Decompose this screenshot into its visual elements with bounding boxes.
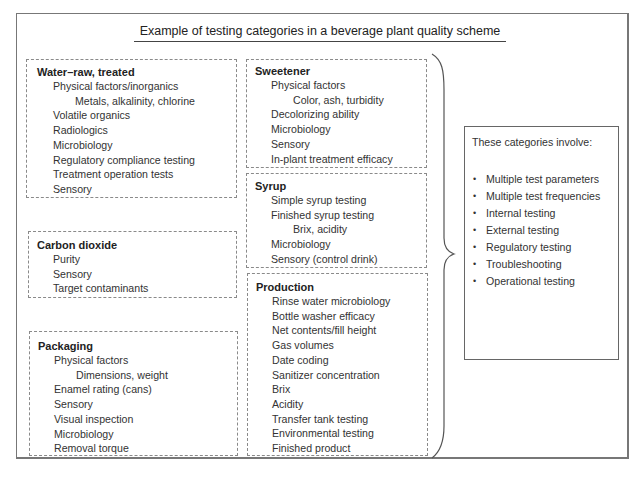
bullet-icon: • [473, 224, 476, 237]
category-heading: Carbon dioxide [37, 238, 236, 252]
category-item: Color, ash, turbidity [255, 93, 426, 108]
category-item: Physical factors [255, 78, 426, 93]
summary-bullet-text: Internal testing [486, 207, 556, 219]
category-item: Sensory [37, 182, 236, 197]
summary-bullet-text: Multiple test parameters [486, 173, 599, 185]
category-box-syrup: Syrup Simple syrup testingFinished syrup… [246, 173, 427, 268]
category-heading: Sweetener [255, 64, 426, 78]
category-item: Date coding [256, 353, 427, 368]
category-item: Gas volumes [256, 338, 427, 353]
category-box-sweetener: Sweetener Physical factorsColor, ash, tu… [246, 59, 427, 168]
summary-bullet-item: •Multiple test parameters [472, 173, 611, 186]
category-box-water: Water–raw, treated Physical factors/inor… [26, 59, 237, 198]
bullet-icon: • [473, 241, 476, 254]
category-item: Sensory [37, 267, 236, 282]
bullet-icon: • [473, 207, 476, 220]
category-item: Enamel rating (cans) [38, 382, 237, 397]
category-item: Physical factors/inorganics [37, 79, 236, 94]
category-heading: Syrup [255, 179, 426, 193]
category-item: Target contaminants [37, 281, 236, 296]
category-item: Microbiology [37, 138, 236, 153]
category-item: Simple syrup testing [255, 193, 426, 208]
summary-bullet-item: •Multiple test frequencies [472, 190, 611, 203]
category-item: Finished product [256, 441, 427, 456]
category-items: PuritySensoryTarget contaminants [37, 252, 236, 296]
category-item: Bottle washer efficacy [256, 309, 427, 324]
category-item: Sensory [38, 397, 237, 412]
category-item: Dimensions, weight [38, 368, 237, 383]
diagram-title: Example of testing categories in a bever… [134, 24, 506, 42]
summary-bullet-text: Troubleshooting [486, 258, 562, 270]
summary-intro: These categories involve: [472, 136, 611, 149]
category-item: Environmental testing [256, 426, 427, 441]
summary-bullet-text: Regulatory testing [486, 241, 571, 253]
category-item: Rinse water microbiology [256, 294, 427, 309]
category-heading: Packaging [38, 339, 237, 353]
summary-bullet-item: •Regulatory testing [472, 241, 611, 254]
category-item: Net contents/fill height [256, 323, 427, 338]
bullet-icon: • [473, 190, 476, 203]
curly-brace-icon [428, 50, 460, 462]
summary-box: These categories involve: •Multiple test… [464, 126, 619, 360]
bullet-icon: • [473, 258, 476, 271]
category-item: Microbiology [38, 427, 237, 442]
summary-bullet-text: External testing [486, 224, 559, 236]
category-item: Volatile organics [37, 108, 236, 123]
category-items: Physical factorsDimensions, weightEnamel… [38, 353, 237, 456]
category-item: Microbiology [255, 122, 426, 137]
category-item: Brix, acidity [255, 222, 426, 237]
category-box-carbon-dioxide: Carbon dioxide PuritySensoryTarget conta… [28, 231, 237, 298]
category-item: Acidity [256, 397, 427, 412]
category-item: Finished syrup testing [255, 208, 426, 223]
summary-bullet-item: •Internal testing [472, 207, 611, 220]
category-heading: Water–raw, treated [37, 65, 236, 79]
category-item: Physical factors [38, 353, 237, 368]
summary-bullet-item: •Troubleshooting [472, 258, 611, 271]
category-box-packaging: Packaging Physical factorsDimensions, we… [29, 331, 238, 456]
bullet-icon: • [473, 275, 476, 288]
category-item: Sensory (control drink) [255, 252, 426, 267]
summary-bullet-list: •Multiple test parameters•Multiple test … [472, 173, 611, 288]
category-items: Physical factorsColor, ash, turbidityDec… [255, 78, 426, 166]
category-item: Removal torque [38, 441, 237, 456]
category-item: Purity [37, 252, 236, 267]
summary-bullet-text: Operational testing [486, 275, 575, 287]
category-item: Sensory [255, 137, 426, 152]
category-item: In-plant treatment efficacy [255, 152, 426, 167]
summary-bullet-item: •Operational testing [472, 275, 611, 288]
category-item: Visual inspection [38, 412, 237, 427]
category-item: Microbiology [255, 237, 426, 252]
category-items: Simple syrup testingFinished syrup testi… [255, 193, 426, 267]
summary-bullet-item: •External testing [472, 224, 611, 237]
category-item: Treatment operation tests [37, 167, 236, 182]
category-item: Brix [256, 382, 427, 397]
category-item: Sanitizer concentration [256, 368, 427, 383]
category-box-production: Production Rinse water microbiologyBottl… [247, 273, 428, 456]
category-item: Radiologics [37, 123, 236, 138]
summary-bullet-text: Multiple test frequencies [486, 190, 600, 202]
bullet-icon: • [473, 173, 476, 186]
category-item: Regulatory compliance testing [37, 153, 236, 168]
category-heading: Production [256, 280, 427, 294]
category-items: Rinse water microbiologyBottle washer ef… [256, 294, 427, 456]
category-item: Decolorizing ability [255, 107, 426, 122]
category-items: Physical factors/inorganicsMetals, alkal… [37, 79, 236, 197]
category-item: Metals, alkalinity, chlorine [37, 94, 236, 109]
category-item: Transfer tank testing [256, 412, 427, 427]
